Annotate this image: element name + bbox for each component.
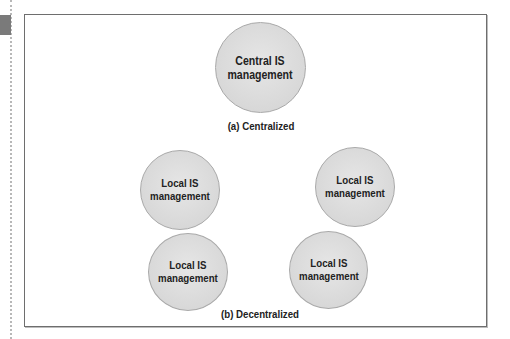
central-is-management-node: Central IS management [215, 22, 306, 113]
margin-tab-marker [0, 15, 11, 35]
local-is-management-node-bottom-left: Local IS management [148, 233, 228, 311]
local-is-management-node-top-right: Local IS management [315, 147, 395, 227]
node-label: Local IS management [150, 177, 210, 203]
local-is-management-node-top-left: Local IS management [140, 150, 220, 230]
node-label: Local IS management [299, 257, 359, 283]
node-label: Central IS management [228, 54, 293, 82]
local-is-management-node-bottom-right: Local IS management [289, 231, 368, 309]
caption-centralized: (a) Centralized [217, 120, 305, 132]
margin-dotted-line [10, 0, 12, 339]
node-label: Local IS management [158, 259, 218, 285]
node-label: Local IS management [325, 174, 385, 200]
caption-decentralized: (b) Decentralized [207, 308, 313, 320]
